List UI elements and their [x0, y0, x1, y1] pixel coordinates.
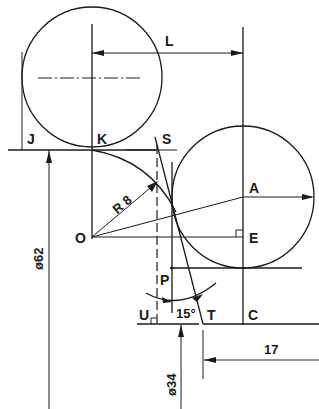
arrowhead-R8	[147, 181, 158, 192]
label-point-T: T	[207, 307, 216, 323]
label-L: L	[165, 33, 174, 49]
label-angle-15: 15°	[176, 306, 196, 321]
label-point-K: K	[97, 131, 107, 147]
arrowhead-L-left	[92, 50, 104, 56]
label-point-C: C	[248, 307, 258, 323]
arrowhead-d62	[46, 151, 52, 163]
label-d34: ø34	[164, 373, 179, 396]
label-point-O: O	[75, 230, 86, 246]
arrowhead-L-right	[231, 50, 243, 56]
label-point-U: U	[139, 307, 149, 323]
label-point-P: P	[160, 272, 169, 288]
label-point-A: A	[249, 180, 259, 196]
label-point-J: J	[27, 131, 35, 147]
arrowhead-d34	[178, 325, 184, 337]
arrowhead-17	[204, 357, 216, 363]
label-point-E: E	[249, 230, 258, 246]
technical-drawing: L R 8 ø62 ø34 17 J K S A O E P U	[0, 0, 319, 409]
right-angle-marker-U	[151, 318, 157, 324]
label-point-S: S	[162, 131, 171, 147]
label-R8: R 8	[110, 192, 135, 216]
right-angle-marker-E	[236, 230, 243, 237]
label-17: 17	[264, 342, 278, 357]
label-d62: ø62	[31, 248, 46, 270]
point-P-dot	[170, 266, 173, 269]
arrowhead-A	[302, 194, 314, 200]
arc-R8	[92, 150, 176, 212]
